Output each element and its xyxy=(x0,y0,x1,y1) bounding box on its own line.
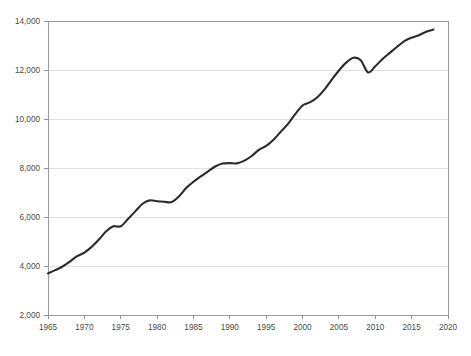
y-tick-label-6000: 6,000 xyxy=(20,213,41,222)
tick-marks-group xyxy=(44,21,448,319)
series-line-0 xyxy=(48,30,433,274)
x-tick-label-2020: 2020 xyxy=(439,323,458,332)
x-tick-label-2005: 2005 xyxy=(330,323,349,332)
x-tick-label-1990: 1990 xyxy=(221,323,240,332)
x-tick-label-1970: 1970 xyxy=(75,323,94,332)
x-tick-label-1985: 1985 xyxy=(184,323,203,332)
x-tick-label-1965: 1965 xyxy=(39,323,58,332)
y-axis-tick-labels: 2,0004,0006,0008,00010,00012,00014,000 xyxy=(15,17,40,320)
x-tick-label-2000: 2000 xyxy=(293,323,312,332)
x-tick-label-2015: 2015 xyxy=(403,323,422,332)
y-tick-label-14000: 14,000 xyxy=(15,17,40,26)
x-axis-tick-labels: 1965197019751980198519901995200020052010… xyxy=(39,323,458,332)
x-tick-label-1995: 1995 xyxy=(257,323,276,332)
y-tick-label-4000: 4,000 xyxy=(20,262,41,271)
y-tick-label-12000: 12,000 xyxy=(15,66,40,75)
y-tick-label-10000: 10,000 xyxy=(15,115,40,124)
chart-canvas: 2,0004,0006,0008,00010,00012,00014,000 1… xyxy=(0,0,471,356)
x-tick-label-1980: 1980 xyxy=(148,323,167,332)
x-tick-label-2010: 2010 xyxy=(366,323,385,332)
y-tick-label-2000: 2,000 xyxy=(20,311,41,320)
line-chart: 2,0004,0006,0008,00010,00012,00014,000 1… xyxy=(0,0,471,356)
y-tick-label-8000: 8,000 xyxy=(20,164,41,173)
x-tick-label-1975: 1975 xyxy=(112,323,131,332)
data-series-group xyxy=(48,30,433,274)
